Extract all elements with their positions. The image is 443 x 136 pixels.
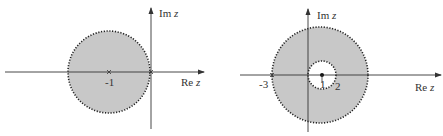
tick-label-1: 1: [320, 78, 326, 90]
center-label: -1: [105, 76, 114, 88]
tick-label-2: 2: [335, 80, 341, 92]
im-axis-label: Im z: [317, 9, 337, 21]
right-diagram: -3 1 2 Im z Re z: [240, 9, 441, 132]
im-axis-label: Im z: [159, 7, 179, 19]
re-axis-label: Re z: [415, 81, 435, 93]
left-diagram: -1 Im z Re z: [5, 7, 204, 129]
complex-plane-figure: -1 Im z Re z -3 1 2 Im z Re z: [0, 0, 443, 136]
re-axis-label: Re z: [181, 76, 201, 88]
tick-label-minus-3: -3: [259, 78, 269, 90]
